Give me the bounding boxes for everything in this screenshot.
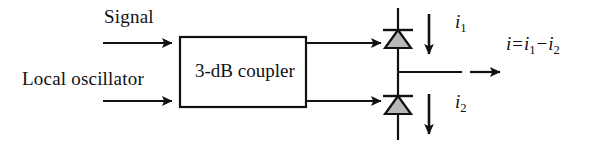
- local-oscillator-input-label: Local oscillator: [22, 68, 144, 90]
- coupler-label: 3-dB coupler: [195, 60, 295, 82]
- diagram-canvas: Signal Local oscillator 3-dB coupler i1 …: [0, 0, 611, 152]
- photodiode-2: [383, 96, 413, 114]
- current-i2-subscript: 2: [460, 101, 466, 115]
- output-equation-label: i=i1−i2: [506, 33, 560, 58]
- photodiode-2-triangle: [385, 96, 411, 114]
- current-i1-subscript: 1: [460, 21, 466, 35]
- current-i1-label: i1: [455, 11, 467, 36]
- photodiode-1: [383, 30, 413, 48]
- output-eq-term1-subscript: 1: [529, 43, 535, 57]
- output-eq-term2-subscript: 2: [554, 43, 560, 57]
- output-eq-minus: −: [536, 33, 549, 54]
- current-i2-label: i2: [455, 91, 467, 116]
- photodiode-1-triangle: [385, 30, 411, 48]
- output-eq-equals: =: [511, 33, 524, 54]
- signal-input-label: Signal: [104, 6, 154, 28]
